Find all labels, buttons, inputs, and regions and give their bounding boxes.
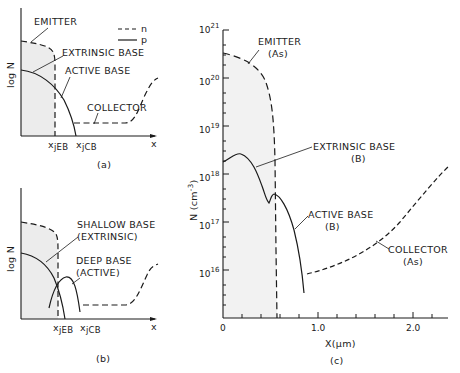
x-tick-1: 1.0 — [311, 323, 326, 333]
emitter-label-c: EMITTER — [258, 36, 301, 47]
collector-species-c: (As) — [403, 256, 423, 267]
x-axis-label: x — [151, 138, 157, 149]
panel-a-caption: (a) — [97, 159, 111, 170]
xjeb-marker-b: xjEB — [53, 322, 73, 335]
y-tick-1e20: 1020 — [199, 74, 219, 87]
y-tick-1e17: 1017 — [199, 218, 219, 231]
active-base-leader-c — [295, 216, 308, 229]
collector-leader — [94, 113, 98, 124]
collector-label: COLLECTOR — [87, 102, 147, 113]
figure-canvas: n p EMITTER EXTRINSIC BASE ACTIVE BASE C… — [0, 0, 460, 373]
emitter-species-c: (As) — [268, 48, 288, 59]
deep-base-label-1: DEEP BASE — [76, 255, 132, 266]
collector-curve — [74, 78, 158, 123]
deep-base-label-2: (ACTIVE) — [76, 267, 120, 278]
y-tick-1e18: 1018 — [199, 170, 219, 183]
xjeb-marker: xjEB — [48, 139, 68, 152]
active-base-label: ACTIVE BASE — [65, 65, 130, 76]
panel-c-caption: (c) — [330, 355, 344, 366]
y-tick-1e19: 1019 — [199, 122, 219, 135]
legend-n-label: n — [141, 23, 147, 34]
x-axis-label-b: x — [151, 321, 157, 332]
collector-label-c: COLLECTOR — [388, 244, 448, 255]
active-base-species-c: (B) — [325, 221, 340, 232]
extrinsic-base-label: EXTRINSIC BASE — [62, 47, 144, 58]
emitter-leader — [31, 28, 48, 42]
y-tick-1e16: 1016 — [199, 266, 220, 279]
y-axis-label-b: log N — [5, 246, 16, 272]
panel-a: n p EMITTER EXTRINSIC BASE ACTIVE BASE C… — [5, 8, 158, 170]
shallow-base-label-1: SHALLOW BASE — [77, 219, 155, 230]
active-base-curve-c — [274, 194, 304, 293]
extrinsic-base-label-c: EXTRINSIC BASE — [313, 141, 395, 152]
y-axis-label: log N — [5, 62, 16, 88]
emitter-shade-c — [223, 53, 277, 318]
active-base-label-c: ACTIVE BASE — [308, 209, 373, 220]
emitter-leader-c — [248, 50, 259, 64]
legend-p-label: p — [141, 34, 147, 45]
xjcb-marker-b: xjCB — [80, 322, 101, 335]
panel-c: 1021 1020 1019 1018 1017 1016 0 1.0 2.0 … — [187, 22, 450, 366]
panel-b: SHALLOW BASE (EXTRINSIC) DEEP BASE (ACTI… — [5, 188, 158, 364]
xjcb-marker: xjCB — [76, 139, 97, 152]
y-tick-1e21: 1021 — [199, 22, 219, 35]
panel-b-caption: (b) — [96, 353, 110, 364]
active-base-leader — [61, 77, 70, 98]
emitter-shade-b — [21, 222, 58, 319]
x-tick-2: 2.0 — [406, 323, 421, 333]
x-tick-0: 0 — [220, 323, 226, 333]
shallow-base-label-2: (EXTRINSIC) — [77, 231, 138, 242]
extrinsic-base-species-c: (B) — [351, 153, 366, 164]
y-axis-label-c: N (cm-3) — [187, 180, 199, 221]
emitter-shade — [21, 41, 55, 136]
emitter-label: EMITTER — [34, 16, 77, 27]
x-axis-label-c: X(μm) — [325, 338, 356, 349]
